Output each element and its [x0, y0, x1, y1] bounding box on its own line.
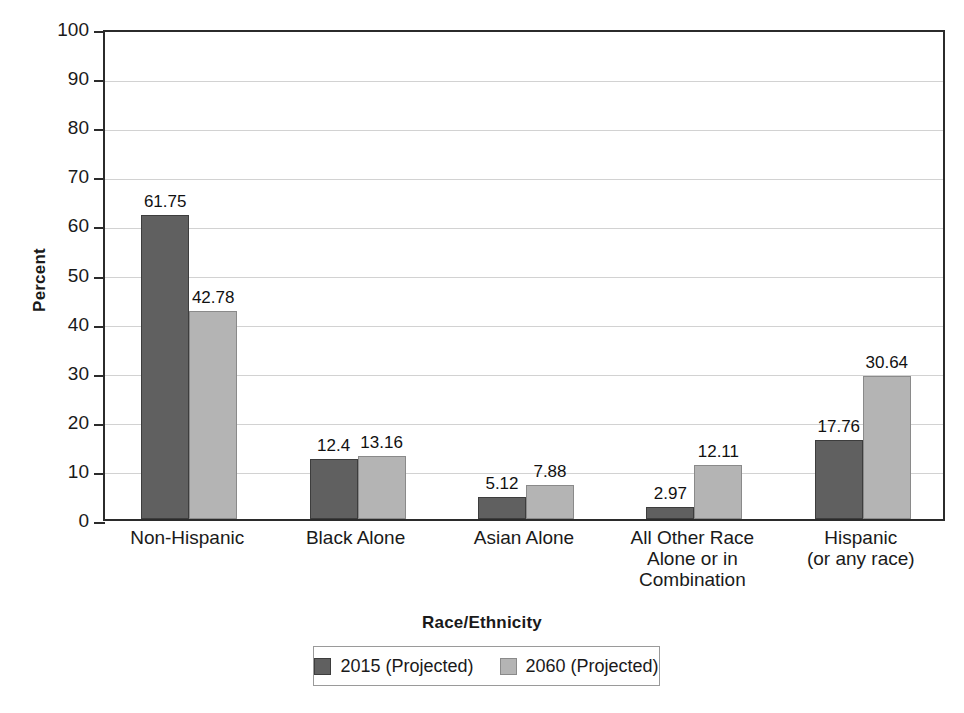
- chart-legend: 2015 (Projected) 2060 (Projected): [313, 646, 660, 686]
- y-tick-label: 80: [41, 118, 89, 137]
- x-tick-label-line: (or any race): [777, 548, 945, 569]
- legend-item-2060: 2060 (Projected): [500, 657, 659, 675]
- bar-2015: [815, 440, 863, 519]
- y-tick-mark: [94, 522, 105, 524]
- bar-chart-figure: Percent 61.7542.7812.413.165.127.882.971…: [0, 0, 964, 713]
- bar-value-label: 30.64: [852, 354, 922, 371]
- y-tick-mark: [94, 375, 105, 377]
- bar-value-label: 12.11: [683, 443, 753, 460]
- bar-value-label: 42.78: [178, 289, 248, 306]
- bar-group: 2.9712.11: [610, 32, 778, 519]
- y-tick-label: 40: [41, 315, 89, 334]
- y-tick-mark: [94, 178, 105, 180]
- y-tick-label: 30: [41, 364, 89, 383]
- x-tick-label-line: Black Alone: [271, 527, 439, 548]
- x-tick-label: All Other RaceAlone or inCombination: [608, 527, 776, 590]
- bar-group: 61.7542.78: [105, 32, 273, 519]
- y-tick-mark: [94, 80, 105, 82]
- legend-label-2060: 2060 (Projected): [526, 657, 659, 675]
- x-tick-label-line: All Other Race: [608, 527, 776, 548]
- y-tick-label: 50: [41, 266, 89, 285]
- x-tick-label: Hispanic(or any race): [777, 527, 945, 569]
- legend-swatch-light-gray: [500, 658, 517, 675]
- legend-swatch-dark-gray: [314, 658, 331, 675]
- x-tick-label: Black Alone: [271, 527, 439, 548]
- y-tick-label: 70: [41, 167, 89, 186]
- x-tick-label-line: Combination: [608, 569, 776, 590]
- y-tick-mark: [94, 129, 105, 131]
- y-tick-label: 100: [41, 20, 89, 39]
- x-axis-title: Race/Ethnicity: [0, 613, 964, 633]
- y-tick-mark: [94, 31, 105, 33]
- bar-2060: [358, 456, 406, 519]
- bar-value-label: 13.16: [347, 434, 417, 451]
- bar-2015: [646, 507, 694, 519]
- y-tick-mark: [94, 227, 105, 229]
- x-tick-label-line: Non-Hispanic: [103, 527, 271, 548]
- y-tick-label: 90: [41, 69, 89, 88]
- x-tick-label: Non-Hispanic: [103, 527, 271, 548]
- x-tick-label-line: Hispanic: [777, 527, 945, 548]
- legend-item-2015: 2015 (Projected): [314, 657, 473, 675]
- legend-label-2015: 2015 (Projected): [340, 657, 473, 675]
- bar-2015: [141, 215, 189, 519]
- bar-2015: [478, 497, 526, 519]
- bar-group: 5.127.88: [442, 32, 610, 519]
- y-tick-mark: [94, 326, 105, 328]
- y-tick-mark: [94, 277, 105, 279]
- bar-2060: [694, 465, 742, 520]
- bar-2015: [310, 459, 358, 519]
- bar-2060: [863, 376, 911, 519]
- y-tick-label: 10: [41, 462, 89, 481]
- plot-area: 61.7542.7812.413.165.127.882.9712.1117.7…: [103, 30, 945, 521]
- bar-value-label: 7.88: [515, 463, 585, 480]
- x-tick-label: Asian Alone: [440, 527, 608, 548]
- y-tick-label: 0: [41, 511, 89, 530]
- bar-group: 17.7630.64: [779, 32, 947, 519]
- bars-layer: 61.7542.7812.413.165.127.882.9712.1117.7…: [105, 32, 943, 519]
- x-tick-label-line: Alone or in: [608, 548, 776, 569]
- bar-2060: [189, 311, 237, 519]
- y-tick-label: 60: [41, 216, 89, 235]
- x-tick-label-line: Asian Alone: [440, 527, 608, 548]
- y-tick-label: 20: [41, 413, 89, 432]
- bar-group: 12.413.16: [273, 32, 441, 519]
- bar-2060: [526, 485, 574, 519]
- y-tick-mark: [94, 473, 105, 475]
- bar-value-label: 61.75: [130, 193, 200, 210]
- y-tick-mark: [94, 424, 105, 426]
